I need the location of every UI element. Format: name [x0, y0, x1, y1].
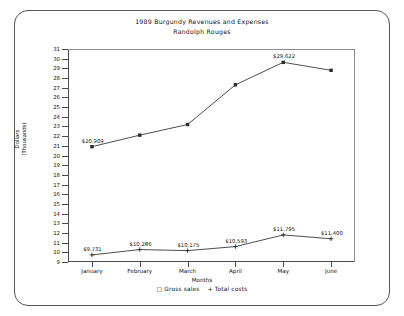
data-point-marker [234, 83, 237, 86]
data-point-marker [233, 244, 237, 248]
data-point-label: $11,400 [321, 230, 343, 236]
chart-legend: □ Gross sales + Total costs [0, 286, 404, 292]
data-point-marker [185, 248, 189, 252]
data-point-marker [138, 133, 141, 136]
data-point-marker [282, 61, 285, 64]
data-point-marker [90, 253, 94, 257]
data-point-label: $10,593 [225, 238, 247, 244]
data-point-marker [186, 123, 189, 126]
data-point-marker [329, 237, 333, 241]
data-point-label: $29,622 [273, 53, 295, 59]
data-point-label: $10,286 [130, 241, 152, 247]
data-point-label: $11,795 [273, 226, 295, 232]
series-line [92, 62, 331, 146]
data-point-label: $10,175 [177, 242, 199, 248]
legend-label-gross: Gross sales [164, 286, 199, 292]
legend-marker-costs-icon: + [208, 286, 213, 292]
legend-label-costs: Total costs [215, 286, 248, 292]
data-point-label: $9,731 [83, 246, 102, 252]
data-point-marker [90, 145, 93, 148]
legend-marker-gross-icon: □ [157, 286, 163, 292]
data-point-label: $20,909 [82, 138, 104, 144]
series-lines [0, 0, 404, 316]
series-line [92, 235, 331, 255]
data-point-marker [138, 247, 142, 251]
x-axis-title: Months [0, 277, 404, 283]
legend-gap [202, 286, 206, 292]
data-point-marker [281, 233, 285, 237]
data-point-marker [329, 69, 332, 72]
